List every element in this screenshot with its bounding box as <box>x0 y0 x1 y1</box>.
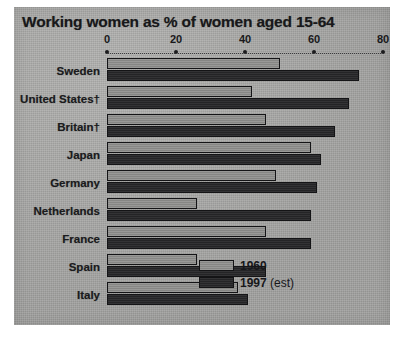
bar-1997 <box>107 182 317 193</box>
category-label: Italy <box>77 289 100 301</box>
category-label: Japan <box>67 149 100 161</box>
category-label: France <box>62 233 100 245</box>
chart-figure: Working women as % of women aged 15-64 0… <box>0 0 404 341</box>
chart-title: Working women as % of women aged 15-64 <box>22 13 335 31</box>
bar-1960 <box>107 58 280 69</box>
legend-item-1997: 1997 (est) <box>199 275 294 290</box>
bar-1960 <box>107 198 197 209</box>
bar-row: United States† <box>107 85 383 113</box>
x-tick-label: 60 <box>308 33 320 45</box>
legend-label-1997-note: (est) <box>267 276 294 290</box>
bar-row: Netherlands <box>107 197 383 225</box>
bar-row: Sweden <box>107 57 383 85</box>
bar-1997 <box>107 70 359 81</box>
bar-1997 <box>107 154 321 165</box>
category-label: Netherlands <box>34 205 100 217</box>
bar-row: Japan <box>107 141 383 169</box>
legend-label-1960: 1960 <box>240 259 267 273</box>
legend-swatch-1997 <box>199 277 234 288</box>
bar-row: France <box>107 225 383 253</box>
x-tick-label: 80 <box>377 33 389 45</box>
category-label: United States† <box>20 93 100 105</box>
bar-1997 <box>107 238 311 249</box>
bar-1960 <box>107 86 252 97</box>
bar-1960 <box>107 170 276 181</box>
category-label: Germany <box>50 177 100 189</box>
x-tick-label: 40 <box>239 33 251 45</box>
category-label: Spain <box>69 261 100 273</box>
legend-swatch-1960 <box>199 260 234 271</box>
bar-1960 <box>107 254 197 265</box>
bar-1960 <box>107 114 266 125</box>
bar-1960 <box>107 226 266 237</box>
bar-1997 <box>107 98 349 109</box>
bar-row: Germany <box>107 169 383 197</box>
bar-1960 <box>107 142 311 153</box>
bar-1997 <box>107 210 311 221</box>
legend-label-1997-year: 1997 <box>240 276 267 290</box>
chart-legend: 1960 1997 (est) <box>199 258 294 292</box>
chart-panel: Working women as % of women aged 15-64 0… <box>14 7 390 325</box>
bar-1997 <box>107 126 335 137</box>
bar-1997 <box>107 294 248 305</box>
x-axis-line <box>107 53 383 54</box>
x-tick-label: 0 <box>104 33 110 45</box>
category-label: Sweden <box>57 65 100 77</box>
legend-label-1997: 1997 (est) <box>240 276 294 290</box>
x-tick-label: 20 <box>170 33 182 45</box>
category-label: Britain† <box>57 121 100 133</box>
bar-row: Britain† <box>107 113 383 141</box>
legend-item-1960: 1960 <box>199 258 294 273</box>
